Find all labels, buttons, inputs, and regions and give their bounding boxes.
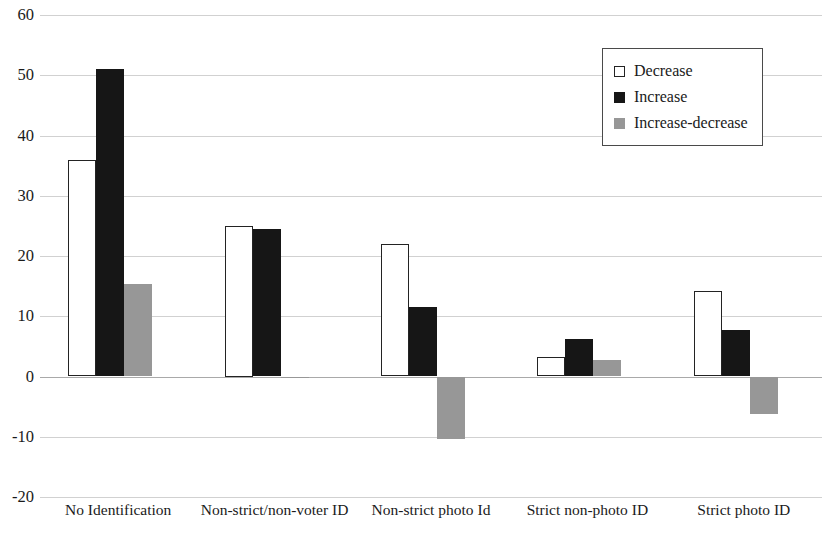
x-tick-label: Strict non-photo ID	[509, 500, 665, 520]
bar	[96, 69, 124, 377]
chart-legend: DecreaseIncreaseIncrease-decrease	[602, 48, 763, 146]
y-axis: 6050403020100-10-20	[0, 15, 34, 497]
bar	[124, 284, 152, 376]
gridline	[40, 497, 822, 498]
legend-item: Increase-decrease	[614, 110, 748, 136]
bar-chart: 6050403020100-10-20 No IdentificationNon…	[0, 0, 834, 542]
y-tick-label: 0	[0, 367, 34, 387]
x-tick-label: Non-strict photo Id	[353, 500, 509, 520]
y-tick-label: 30	[0, 186, 34, 206]
y-tick-label: -20	[0, 487, 34, 507]
bar-group	[353, 15, 509, 497]
bar	[593, 360, 621, 377]
x-tick-label: Strict photo ID	[666, 500, 822, 520]
bar	[68, 160, 96, 377]
legend-label: Increase-decrease	[634, 114, 748, 132]
legend-item: Decrease	[614, 58, 748, 84]
bar	[750, 377, 778, 414]
bar-group	[196, 15, 352, 497]
bar-group	[40, 15, 196, 497]
x-tick-label: Non-strict/non-voter ID	[196, 500, 352, 520]
bar	[253, 229, 281, 377]
bar	[722, 330, 750, 377]
legend-label: Increase	[634, 88, 687, 106]
bar	[381, 244, 409, 377]
bar	[565, 339, 593, 376]
bar	[537, 357, 565, 376]
bar	[409, 307, 437, 376]
x-tick-label: No Identification	[40, 500, 196, 520]
bar	[694, 291, 722, 377]
legend-item: Increase	[614, 84, 748, 110]
y-tick-label: 10	[0, 306, 34, 326]
y-tick-label: -10	[0, 427, 34, 447]
legend-swatch-icon	[614, 118, 625, 129]
bar	[225, 226, 253, 377]
legend-swatch-icon	[614, 66, 625, 77]
legend-label: Decrease	[634, 62, 693, 80]
legend-swatch-icon	[614, 92, 625, 103]
y-tick-label: 20	[0, 246, 34, 266]
bar	[281, 377, 309, 379]
y-tick-label: 60	[0, 5, 34, 25]
y-tick-label: 50	[0, 65, 34, 85]
bar	[437, 377, 465, 440]
y-tick-label: 40	[0, 126, 34, 146]
x-axis: No IdentificationNon-strict/non-voter ID…	[40, 500, 822, 542]
